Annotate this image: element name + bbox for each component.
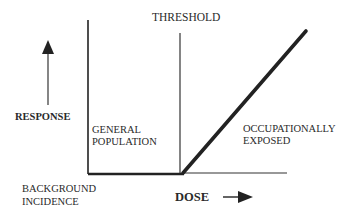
general-population-label-2: POPULATION bbox=[92, 136, 157, 148]
occupationally-exposed-label-2: EXPOSED bbox=[243, 135, 290, 147]
response-arrow-head-icon bbox=[42, 40, 54, 54]
dose-arrow-head-icon bbox=[238, 191, 253, 203]
response-axis-label: RESPONSE bbox=[15, 111, 70, 123]
threshold-label: THRESHOLD bbox=[152, 11, 220, 23]
dose-axis-label: DOSE bbox=[175, 191, 209, 203]
occupationally-exposed-label-1: OCCUPATIONALLY bbox=[243, 123, 336, 135]
background-incidence-label-1: BACKGROUND bbox=[22, 183, 96, 195]
dose-response-line bbox=[183, 31, 306, 173]
background-incidence-label-2: INCIDENCE bbox=[22, 196, 79, 208]
general-population-label-1: GENERAL bbox=[92, 124, 141, 136]
